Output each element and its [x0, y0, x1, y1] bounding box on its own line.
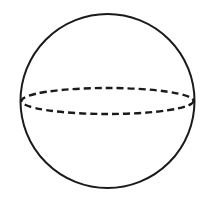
sphere-diagram	[0, 0, 205, 199]
sphere-outline	[21, 14, 195, 188]
equator-dashed-ellipse	[22, 88, 194, 114]
